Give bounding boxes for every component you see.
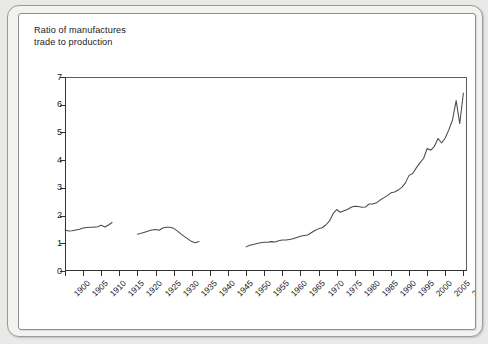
x-axis-tick-mark: 1900 bbox=[65, 271, 66, 276]
x-axis-tick-label: 1950 bbox=[253, 278, 274, 299]
plot-area: 01234567 1900190519101915192019251930193… bbox=[65, 77, 467, 271]
x-axis-tick-mark: 1960 bbox=[282, 271, 283, 276]
x-axis-tick-mark: 1980 bbox=[355, 271, 356, 276]
y-axis-tick-label: 7 bbox=[57, 71, 62, 84]
x-axis-tick-mark: 1965 bbox=[300, 271, 301, 276]
x-axis-tick-label: 1990 bbox=[398, 278, 419, 299]
x-axis-tick-mark: 1945 bbox=[228, 271, 229, 276]
y-axis-tick-label: 3 bbox=[57, 181, 62, 194]
x-axis-tick-label: 1940 bbox=[216, 278, 237, 299]
x-axis-tick-label: 1900 bbox=[72, 278, 93, 299]
series-lines bbox=[65, 77, 467, 271]
x-axis-tick-label: 1955 bbox=[271, 278, 292, 299]
x-axis-tick-label: 1995 bbox=[416, 278, 437, 299]
x-axis-tick-mark: 1915 bbox=[119, 271, 120, 276]
x-axis-tick-mark: 1930 bbox=[174, 271, 175, 276]
x-axis-tick-label: 2005 bbox=[452, 278, 473, 299]
x-axis-tick-label: 1960 bbox=[289, 278, 310, 299]
x-axis-tick-label: 2000 bbox=[434, 278, 455, 299]
x-axis-tick-mark: 2000 bbox=[427, 271, 428, 276]
x-axis-tick-label: 1970 bbox=[325, 278, 346, 299]
x-axis-tick-label: 1980 bbox=[361, 278, 382, 299]
x-axis-tick-mark: 1905 bbox=[83, 271, 84, 276]
x-axis-tick-mark: 1925 bbox=[156, 271, 157, 276]
figure-card: Ratio of manufactures trade to productio… bbox=[18, 13, 476, 330]
x-axis-tick-label: 1930 bbox=[180, 278, 201, 299]
y-axis-tick-label: 1 bbox=[57, 237, 62, 250]
chart-title-line-1: Ratio of manufactures bbox=[34, 25, 126, 35]
series-segment-3 bbox=[246, 93, 463, 247]
x-axis-tick-label: 1920 bbox=[144, 278, 165, 299]
chart-title-line-2: trade to production bbox=[34, 37, 113, 47]
x-axis-tick-mark: 1970 bbox=[319, 271, 320, 276]
x-axis-tick-label: 1975 bbox=[343, 278, 364, 299]
x-axis-tick-mark: 1995 bbox=[409, 271, 410, 276]
series-segment-2 bbox=[137, 227, 199, 243]
y-axis-tick-label: 2 bbox=[57, 209, 62, 222]
x-axis-tick-mark: 1985 bbox=[373, 271, 374, 276]
x-axis-tick-mark: 1975 bbox=[337, 271, 338, 276]
x-axis-tick-mark: 1990 bbox=[391, 271, 392, 276]
x-axis-tick-mark: 1955 bbox=[264, 271, 265, 276]
x-axis-tick-label: 1925 bbox=[162, 278, 183, 299]
x-axis-tick-label: 1935 bbox=[198, 278, 219, 299]
x-axis-tick-label: 1985 bbox=[379, 278, 400, 299]
x-axis-tick-label: 1905 bbox=[90, 278, 111, 299]
y-axis-tick-label: 4 bbox=[57, 154, 62, 167]
x-axis-tick-mark: 1935 bbox=[192, 271, 193, 276]
x-axis-tick-mark: 1910 bbox=[101, 271, 102, 276]
y-axis-tick-label: 6 bbox=[57, 98, 62, 111]
x-axis-tick-mark: 1950 bbox=[246, 271, 247, 276]
y-axis-tick-label: 0 bbox=[57, 265, 62, 278]
x-axis-tick-label: 1915 bbox=[126, 278, 147, 299]
chart-title: Ratio of manufactures trade to productio… bbox=[34, 24, 126, 48]
x-axis-tick-label: 2010 bbox=[470, 278, 476, 299]
x-axis-tick-mark: 2005 bbox=[445, 271, 446, 276]
y-axis-tick-label: 5 bbox=[57, 126, 62, 139]
x-axis-tick-mark: 1920 bbox=[137, 271, 138, 276]
x-axis-tick-label: 1965 bbox=[307, 278, 328, 299]
figure-root: Ratio of manufactures trade to productio… bbox=[0, 0, 488, 344]
x-axis-tick-label: 1945 bbox=[235, 278, 256, 299]
series-segment-1 bbox=[65, 223, 112, 232]
x-axis-tick-mark: 2010 bbox=[463, 271, 464, 276]
x-axis-tick-mark: 1940 bbox=[210, 271, 211, 276]
x-axis-tick-label: 1910 bbox=[108, 278, 129, 299]
